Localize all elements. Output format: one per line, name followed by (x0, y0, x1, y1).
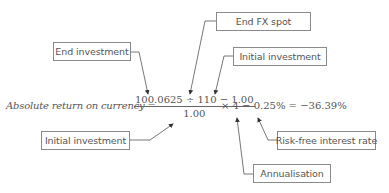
callout-end-investment: End investment (53, 42, 131, 61)
callout-risk-free-interest-rate: Risk-free interest rate (277, 131, 376, 150)
formula-tail: × 4 − 0.25% = −36.39% (221, 100, 347, 111)
callout-label: Annualisation (260, 168, 323, 179)
callout-label: End FX spot (236, 16, 291, 27)
callout-initial-investment-top: Initial investment (233, 47, 327, 66)
callout-label: End investment (55, 46, 128, 57)
arrow-annualisation (237, 118, 253, 174)
callout-label: Initial investment (239, 51, 320, 62)
arrow-initial-investment-bottom (130, 124, 173, 140)
arrow-end-investment (130, 52, 148, 94)
callout-label: Initial investment (45, 135, 126, 146)
formula-lhs-label: Absolute return on currency (6, 100, 145, 111)
callout-initial-investment-bottom: Initial investment (41, 131, 130, 150)
callout-annualisation: Annualisation (253, 164, 331, 183)
callout-end-fx-spot: End FX spot (216, 12, 311, 31)
arrow-risk-free-rate (258, 118, 277, 140)
arrow-end-fx-spot (190, 21, 216, 94)
callout-label: Risk-free interest rate (276, 135, 377, 146)
arrow-initial-investment-top (215, 56, 233, 94)
